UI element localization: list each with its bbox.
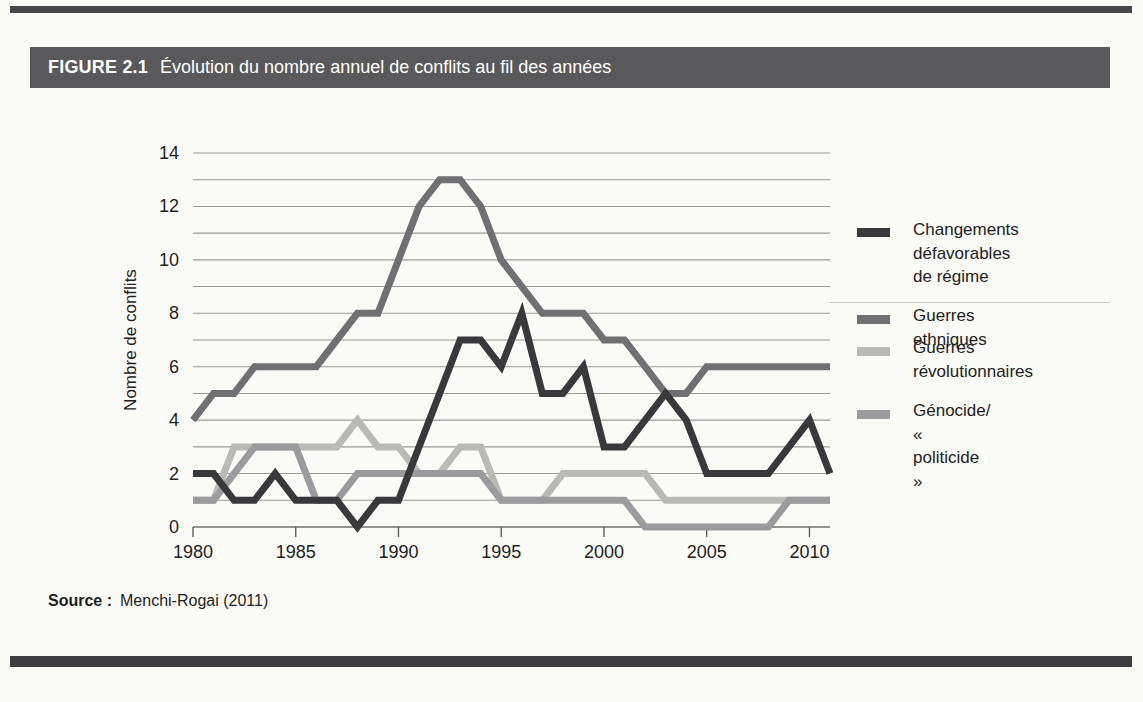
y-tick-label: 10 <box>159 250 179 270</box>
x-tick-label: 1990 <box>378 542 418 562</box>
x-tick-label: 2005 <box>687 542 727 562</box>
scanned-figure-page: { "page": { "figure_label": "FIGURE 2.1"… <box>0 0 1143 702</box>
series-swatch-changements <box>857 228 890 237</box>
y-tick-label: 12 <box>159 196 179 216</box>
y-tick-label: 4 <box>169 410 179 430</box>
x-tick-label: 1980 <box>173 542 213 562</box>
series-swatch-genocide <box>857 410 890 419</box>
x-tick-label: 2010 <box>789 542 829 562</box>
source-line: Source :Menchi-Rogai (2011) <box>48 592 268 610</box>
series-swatch-revolutionnaires <box>857 347 890 356</box>
y-tick-label: 2 <box>169 464 179 484</box>
y-tick-label: 6 <box>169 357 179 377</box>
x-tick-label: 2000 <box>584 542 624 562</box>
x-tick-label: 1985 <box>276 542 316 562</box>
source-text: Menchi-Rogai (2011) <box>120 592 268 609</box>
legend-separator-artifact <box>830 302 1110 303</box>
legend-label-genocide: Génocide/ « politicide » <box>913 399 991 493</box>
legend-label-changements: Changements défavorables de régime <box>913 218 1019 289</box>
x-tick-label: 1995 <box>481 542 521 562</box>
y-tick-label: 14 <box>159 143 179 163</box>
x-axis: 1980198519901995200020052010 <box>173 527 829 562</box>
series-line-1 <box>193 180 830 420</box>
y-tick-label: 8 <box>169 303 179 323</box>
y-axis: 02468101214 <box>159 143 179 537</box>
y-tick-label: 0 <box>169 517 179 537</box>
series-swatch-ethniques <box>857 315 890 324</box>
y-axis-title: Nombre de conflits <box>121 250 145 430</box>
legend-label-revolutionnaires: Guerres révolutionnaires <box>913 336 1033 383</box>
source-label: Source : <box>48 592 112 609</box>
